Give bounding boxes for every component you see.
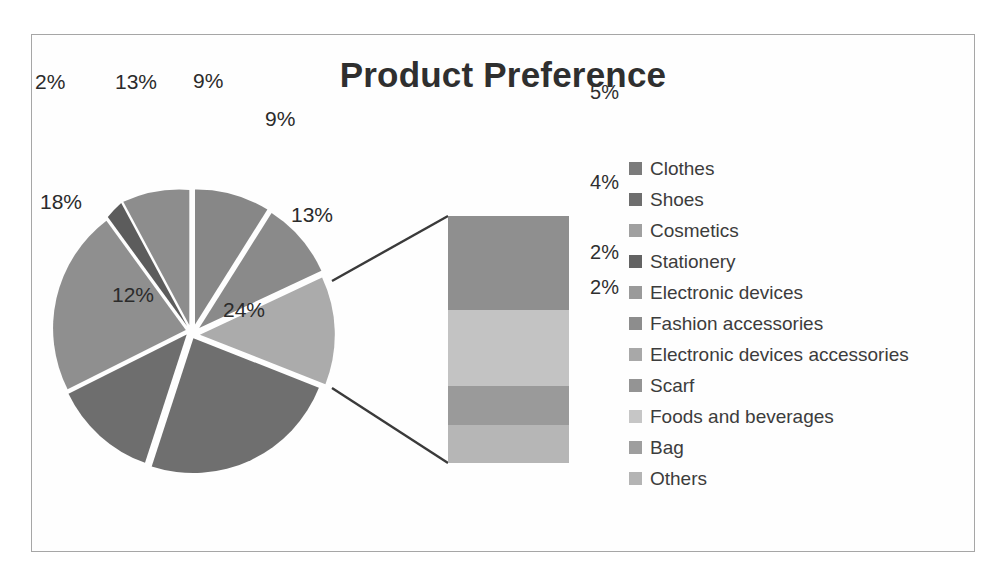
chart-plot-area: 9% 9% 13% 24% 12% 18% 2% 13% 5% 4% 2% 2%… (32, 35, 976, 553)
pie-label-stationery: 24% (223, 298, 265, 322)
legend-item-electronic-devices-accessories[interactable]: Electronic devices accessories (629, 339, 959, 370)
legend-swatch-icon (629, 379, 642, 392)
legend-swatch-icon (629, 317, 642, 330)
bar-label-scarf: 5% (573, 81, 619, 104)
legend-item-bag[interactable]: Bag (629, 432, 959, 463)
pie-slices (53, 189, 335, 473)
legend-item-label: Foods and beverages (650, 407, 834, 426)
bar-segment-others[interactable] (448, 425, 569, 463)
pie-label-cosmetics: 13% (291, 203, 333, 227)
legend-swatch-icon (629, 224, 642, 237)
legend-swatch-icon (629, 441, 642, 454)
pie-label-electronic-devices: 12% (112, 283, 154, 307)
pie-label-fashion-accessories: 18% (40, 190, 82, 214)
chart-legend: Clothes Shoes Cosmetics Stationery Elect… (629, 153, 959, 494)
legend-item-label: Stationery (650, 252, 736, 271)
bar-of-pie (448, 216, 569, 463)
legend-item-scarf[interactable]: Scarf (629, 370, 959, 401)
bar-label-bag: 2% (573, 241, 619, 264)
legend-item-stationery[interactable]: Stationery (629, 246, 959, 277)
legend-item-label: Cosmetics (650, 221, 739, 240)
legend-swatch-icon (629, 410, 642, 423)
leader-lines (332, 216, 448, 463)
legend-item-label: Electronic devices accessories (650, 345, 909, 364)
legend-item-label: Fashion accessories (650, 314, 823, 333)
legend-item-others[interactable]: Others (629, 463, 959, 494)
pie-label-clothes: 9% (193, 69, 223, 93)
legend-item-label: Clothes (650, 159, 714, 178)
legend-swatch-icon (629, 286, 642, 299)
legend-swatch-icon (629, 472, 642, 485)
pie-label-shoes: 9% (265, 107, 295, 131)
legend-item-label: Scarf (650, 376, 694, 395)
bar-label-foods-and-beverages: 4% (573, 171, 619, 194)
legend-item-clothes[interactable]: Clothes (629, 153, 959, 184)
legend-swatch-icon (629, 193, 642, 206)
pie-label-others-top: 13% (115, 70, 157, 94)
legend-item-label: Electronic devices (650, 283, 803, 302)
legend-item-shoes[interactable]: Shoes (629, 184, 959, 215)
legend-item-foods-and-beverages[interactable]: Foods and beverages (629, 401, 959, 432)
legend-swatch-icon (629, 255, 642, 268)
legend-item-label: Others (650, 469, 707, 488)
legend-swatch-icon (629, 348, 642, 361)
legend-item-label: Shoes (650, 190, 704, 209)
legend-item-cosmetics[interactable]: Cosmetics (629, 215, 959, 246)
legend-item-fashion-accessories[interactable]: Fashion accessories (629, 308, 959, 339)
pie-label-electronic-devices-accessories: 2% (35, 70, 65, 94)
bar-segment-bag[interactable] (448, 386, 569, 425)
legend-item-electronic-devices[interactable]: Electronic devices (629, 277, 959, 308)
bar-segment-scarf[interactable] (448, 216, 569, 310)
legend-swatch-icon (629, 162, 642, 175)
bar-segment-foods-and-beverages[interactable] (448, 310, 569, 386)
legend-item-label: Bag (650, 438, 684, 457)
chart-frame: Product Preference (31, 34, 975, 552)
bar-label-others: 2% (573, 276, 619, 299)
